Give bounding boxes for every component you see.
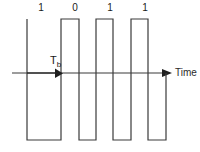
time-axis-label: Time xyxy=(175,67,197,79)
bit-period-label-main: T xyxy=(50,54,57,66)
waveform-canvas xyxy=(0,0,200,152)
bit-label-1: 1 xyxy=(34,2,48,14)
manchester-waveform-figure: 1 0 1 1 Tb Time xyxy=(0,0,200,152)
bit-period-arrowhead-icon xyxy=(55,69,63,79)
bit-label-4: 1 xyxy=(138,2,152,14)
bit-label-3: 1 xyxy=(103,2,117,14)
bit-period-label-subscript: b xyxy=(57,60,61,69)
manchester-waveform-path xyxy=(27,19,166,140)
bit-label-2: 0 xyxy=(68,2,82,14)
right-arrow-icon xyxy=(162,69,172,77)
bit-period-label: Tb xyxy=(50,55,61,69)
